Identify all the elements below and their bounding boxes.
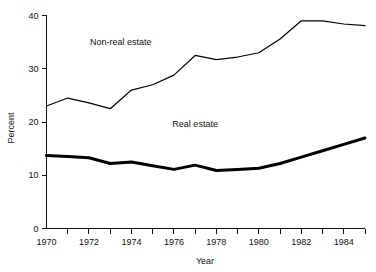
x-tick-label: 1982 bbox=[291, 237, 311, 247]
y-tick-label: 10 bbox=[28, 170, 38, 180]
y-tick-label: 0 bbox=[33, 224, 38, 234]
series-label-real-estate: Real estate bbox=[172, 119, 218, 129]
y-tick-label: 40 bbox=[28, 11, 38, 21]
x-axis-title: Year bbox=[196, 256, 214, 266]
x-tick-label: 1984 bbox=[334, 237, 354, 247]
series-label-non-real-estate: Non-real estate bbox=[90, 37, 152, 47]
y-tick-label: 30 bbox=[28, 64, 38, 74]
y-tick-label: 20 bbox=[28, 117, 38, 127]
x-tick-label: 1980 bbox=[249, 237, 269, 247]
x-tick-label: 1974 bbox=[121, 237, 141, 247]
line-chart: 010203040 197019721974197619781980198219… bbox=[0, 0, 376, 272]
x-tick-label: 1978 bbox=[206, 237, 226, 247]
x-tick-label: 1970 bbox=[36, 237, 56, 247]
x-tick-label: 1972 bbox=[79, 237, 99, 247]
y-axis-title: Percent bbox=[6, 112, 16, 144]
x-tick-label: 1976 bbox=[164, 237, 184, 247]
plot-background bbox=[0, 0, 376, 272]
chart-figure: 010203040 197019721974197619781980198219… bbox=[0, 0, 376, 272]
